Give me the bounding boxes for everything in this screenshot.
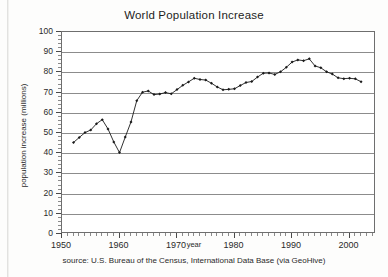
x-tick-minor — [170, 233, 171, 236]
data-point-marker — [296, 58, 299, 61]
y-tick-label: 60 — [44, 107, 53, 117]
y-tick-label: 20 — [44, 188, 53, 198]
x-tick-minor — [297, 233, 298, 236]
x-tick-minor — [153, 233, 154, 236]
x-tick-minor — [188, 233, 189, 236]
x-tick-minor — [205, 233, 206, 236]
x-tick-minor — [303, 233, 304, 236]
x-tick-major — [291, 233, 292, 238]
x-tick-minor — [136, 233, 137, 236]
x-tick-minor — [320, 233, 321, 236]
data-point-marker — [199, 78, 202, 81]
x-tick-minor — [331, 233, 332, 236]
x-tick-minor — [216, 233, 217, 236]
y-tick-label: 80 — [44, 66, 53, 76]
data-point-marker — [227, 88, 230, 91]
x-tick-minor — [372, 233, 373, 236]
x-tick-minor — [314, 233, 315, 236]
x-tick-minor — [308, 233, 309, 236]
data-point-marker — [164, 91, 167, 94]
data-point-marker — [348, 77, 351, 80]
x-tick-minor — [239, 233, 240, 236]
x-tick-major — [61, 233, 62, 238]
x-tick-minor — [354, 233, 355, 236]
x-tick-minor — [285, 233, 286, 236]
x-tick-minor — [147, 233, 148, 236]
y-tick-label: 100 — [39, 26, 53, 36]
y-tick-label: 40 — [44, 147, 53, 157]
y-tick-label: 50 — [44, 127, 53, 137]
x-tick-minor — [326, 233, 327, 236]
data-point-marker — [354, 77, 357, 80]
series-line — [74, 59, 362, 153]
x-tick-minor — [159, 233, 160, 236]
x-tick-major — [349, 233, 350, 238]
data-point-marker — [124, 136, 127, 139]
x-tick-minor — [280, 233, 281, 236]
source-caption: source: U.S. Bureau of the Census, Inter… — [0, 256, 388, 265]
data-point-marker — [268, 72, 271, 75]
y-tick-label: 10 — [44, 208, 53, 218]
x-tick-minor — [228, 233, 229, 236]
x-tick-minor — [211, 233, 212, 236]
x-tick-minor — [274, 233, 275, 236]
y-tick-label: 90 — [44, 46, 53, 56]
x-tick-minor — [251, 233, 252, 236]
x-tick-minor — [193, 233, 194, 236]
x-tick-minor — [67, 233, 68, 236]
x-tick-minor — [84, 233, 85, 236]
x-tick-major — [234, 233, 235, 238]
x-tick-minor — [268, 233, 269, 236]
x-tick-minor — [257, 233, 258, 236]
y-tick-label: 30 — [44, 167, 53, 177]
data-series — [62, 32, 376, 234]
x-tick-minor — [165, 233, 166, 236]
chart-page: World Population Increase 01020304050607… — [0, 0, 388, 277]
data-point-marker — [302, 59, 305, 62]
x-tick-minor — [101, 233, 102, 236]
x-tick-minor — [73, 233, 74, 236]
x-tick-minor — [113, 233, 114, 236]
x-tick-minor — [366, 233, 367, 236]
x-tick-minor — [199, 233, 200, 236]
x-tick-minor — [222, 233, 223, 236]
x-tick-minor — [337, 233, 338, 236]
data-point-marker — [158, 93, 161, 96]
data-point-marker — [222, 88, 225, 91]
x-tick-minor — [142, 233, 143, 236]
x-tick-minor — [107, 233, 108, 236]
data-point-marker — [360, 80, 363, 83]
x-tick-minor — [182, 233, 183, 236]
x-tick-minor — [130, 233, 131, 236]
y-tick-label: 70 — [44, 87, 53, 97]
x-tick-minor — [343, 233, 344, 236]
x-tick-major — [119, 233, 120, 238]
x-tick-minor — [96, 233, 97, 236]
x-tick-minor — [124, 233, 125, 236]
x-tick-minor — [245, 233, 246, 236]
x-tick-minor — [262, 233, 263, 236]
x-tick-minor — [90, 233, 91, 236]
data-point-marker — [273, 73, 276, 76]
y-axis-title: population increase (millions) — [19, 61, 28, 211]
plot-area — [61, 31, 375, 233]
x-tick-minor — [360, 233, 361, 236]
data-point-marker — [130, 120, 133, 123]
x-tick-minor — [78, 233, 79, 236]
data-point-marker — [342, 77, 345, 80]
x-axis-title: year — [0, 240, 388, 249]
x-tick-major — [176, 233, 177, 238]
